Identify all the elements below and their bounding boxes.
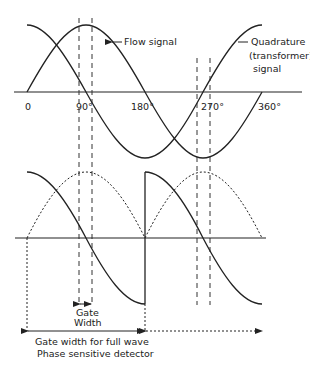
gate-label-2: Width xyxy=(74,317,102,328)
full-wave-label-1: Gate width for full wave xyxy=(35,336,149,347)
quadrature-label-1: Quadrature xyxy=(251,36,306,47)
tick-180: 180° xyxy=(131,101,154,112)
tick-360: 360° xyxy=(258,101,281,112)
quadrature-label-2: (transformer) xyxy=(249,50,310,61)
full-wave-label-2: Phase sensitive detector xyxy=(37,348,154,359)
tick-0: 0 xyxy=(25,101,31,112)
rectified-wave-1 xyxy=(27,172,145,238)
rectified-wave-2 xyxy=(145,172,262,238)
flow-signal-label: Flow signal xyxy=(124,36,177,47)
tick-270: 270° xyxy=(201,101,224,112)
phase-detector-diagram: Flow signal Quadrature (transformer) sig… xyxy=(0,0,310,365)
quadrature-label-3: signal xyxy=(253,63,281,74)
